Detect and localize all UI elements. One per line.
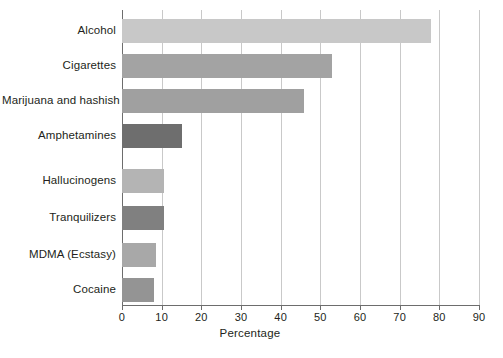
tick-mark-30 [241,306,242,310]
tick-label-10: 10 [142,311,182,324]
tick-mark-60 [360,306,361,310]
bar-alcohol[interactable] [122,19,431,43]
tick-mark-70 [400,306,401,310]
tick-label-90: 90 [459,311,499,324]
tick-label-20: 20 [181,311,221,324]
tick-mark-40 [281,306,282,310]
category-label-cigarettes: Cigarettes [2,59,116,72]
x-axis-line [122,305,480,306]
x-axis-title-text: Percentage [220,327,281,339]
gridline-80 [439,10,440,305]
tick-mark-10 [162,306,163,310]
tick-mark-80 [439,306,440,310]
bar-cigarettes[interactable] [122,54,332,78]
bar-marijuana-and-hashish[interactable] [122,89,304,113]
category-label-hallucinogens: Hallucinogens [2,174,116,187]
gridline-90 [479,10,480,305]
category-label-marijuana-and-hashish: Marijuana and hashish [2,94,116,107]
tick-label-40: 40 [261,311,301,324]
category-label-amphetamines: Amphetamines [2,129,116,142]
tick-mark-20 [201,306,202,310]
tick-label-0: 0 [102,311,142,324]
bar-mdma-ecstasy[interactable] [122,243,156,267]
tick-mark-90 [479,306,480,310]
bar-tranquilizers[interactable] [122,206,164,230]
tick-mark-50 [320,306,321,310]
gridline-70 [400,10,401,305]
bar-cocaine[interactable] [122,278,154,302]
category-label-column: Alcohol Cigarettes Marijuana and hashish… [0,0,116,358]
plot-area [122,10,479,305]
bar-chart: Alcohol Cigarettes Marijuana and hashish… [0,0,503,358]
category-label-alcohol: Alcohol [2,24,116,37]
category-label-tranquilizers: Tranquilizers [2,211,116,224]
tick-label-30: 30 [221,311,261,324]
tick-label-60: 60 [340,311,380,324]
tick-label-70: 70 [380,311,420,324]
category-label-mdma-ecstasy: MDMA (Ecstasy) [2,248,116,261]
tick-label-50: 50 [300,311,340,324]
gridline-60 [360,10,361,305]
category-label-cocaine: Cocaine [2,283,116,296]
tick-label-80: 80 [419,311,459,324]
bar-hallucinogens[interactable] [122,169,164,193]
x-axis-title: Percentage [0,327,503,339]
bar-amphetamines[interactable] [122,124,182,148]
tick-mark-0 [122,306,123,310]
